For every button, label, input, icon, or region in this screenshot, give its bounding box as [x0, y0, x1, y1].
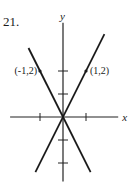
graph-line [35, 34, 104, 172]
coordinate-graph: (-1,2)(1,2) x y [0, 0, 136, 191]
graph-point [38, 69, 41, 72]
point-label: (1,2) [90, 65, 109, 77]
y-axis-label: y [59, 10, 65, 22]
point-label: (-1,2) [15, 65, 38, 77]
graph-line [29, 48, 91, 172]
x-axis-label: x [121, 111, 127, 123]
graph-point [84, 69, 87, 72]
graph-lines [29, 34, 105, 172]
